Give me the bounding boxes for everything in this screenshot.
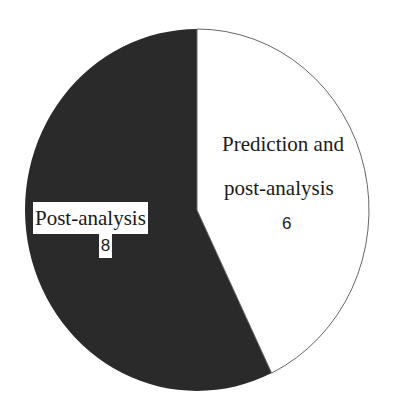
label-prediction-line1: Prediction and xyxy=(222,132,344,157)
label-post-analysis-value: 8 xyxy=(99,234,112,258)
label-post-analysis: Post-analysis xyxy=(33,202,148,234)
label-prediction-line2: post-analysis xyxy=(224,176,334,201)
label-prediction-value: 6 xyxy=(282,214,291,234)
